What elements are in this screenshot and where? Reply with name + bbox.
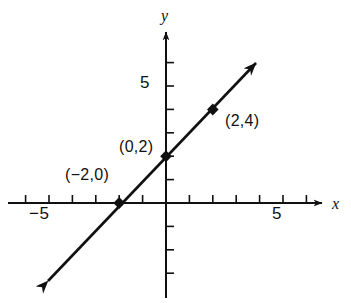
y-axis [166,32,174,298]
point-label-2-4: (2,4) [225,113,259,129]
y-axis-ticks [166,63,174,274]
point-marker-a [113,197,125,209]
coordinate-plane-figure: −5 5 5 x y (−2,0) (0,2) (2,4) [0,0,351,303]
y-tick-label-pos5: 5 [140,74,150,91]
x-axis-label: x [332,196,339,212]
x-tick-label-pos5: 5 [272,205,282,222]
graph-canvas [0,0,351,303]
y-axis-label: y [161,8,168,24]
point-label-0-2: (0,2) [119,139,153,155]
point-label-neg2-0: (−2,0) [65,167,109,183]
x-tick-label-neg5: −5 [29,205,49,222]
